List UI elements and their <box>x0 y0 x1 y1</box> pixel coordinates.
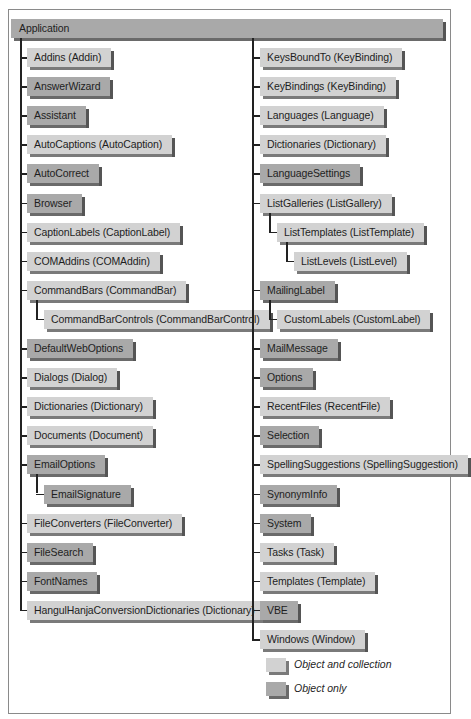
connector <box>269 213 271 232</box>
node-fontnames: FontNames <box>27 572 97 591</box>
node-listgalleries: ListGalleries (ListGallery) <box>260 194 392 213</box>
node-languagesettings: LanguageSettings <box>260 164 360 183</box>
node-templates: Templates (Template) <box>260 572 375 591</box>
legend-swatch-coll <box>266 658 286 672</box>
node-filesearch: FileSearch <box>27 543 93 562</box>
node-documents: Documents (Document) <box>27 426 153 445</box>
node-comaddins: COMAddins (COMAddin) <box>27 252 160 271</box>
connector <box>269 232 277 234</box>
node-commandbars: CommandBars (CommandBar) <box>27 281 186 300</box>
legend-swatch-obj <box>266 682 286 696</box>
node-hangulhanjaconversiondictionaries: HangulHanjaConversionDictionaries (Dicti… <box>27 601 265 620</box>
node-languages: Languages (Language) <box>260 106 384 125</box>
node-customlabels: CustomLabels (CustomLabel) <box>277 310 430 329</box>
connector <box>286 242 288 261</box>
legend-label: Object and collection <box>294 658 391 670</box>
node-addins: Addins (Addin) <box>27 48 111 67</box>
node-vbe: VBE <box>260 601 298 620</box>
node-system: System <box>260 514 311 533</box>
connector <box>252 38 254 641</box>
connector <box>269 300 271 319</box>
node-dictionaries: Dictionaries (Dictionary) <box>27 397 153 416</box>
node-options: Options <box>260 368 313 387</box>
node-browser: Browser <box>27 194 82 213</box>
node-listlevels: ListLevels (ListLevel) <box>294 252 407 271</box>
node-captionlabels: CaptionLabels (CaptionLabel) <box>27 223 180 242</box>
node-autocaptions: AutoCaptions (AutoCaption) <box>27 135 172 154</box>
node-mailmessage: MailMessage <box>260 339 338 358</box>
node-listtemplates: ListTemplates (ListTemplate) <box>277 223 424 242</box>
node-autocorrect: AutoCorrect <box>27 164 99 183</box>
connector <box>36 319 44 321</box>
node-application: Application <box>11 19 443 38</box>
connector <box>286 261 294 263</box>
connector <box>269 319 277 321</box>
connector <box>36 300 38 319</box>
node-defaultweboptions: DefaultWebOptions <box>27 339 133 358</box>
node-commandbarcontrols: CommandBarControls (CommandBarControl) <box>44 310 270 329</box>
node-emailsignature: EmailSignature <box>44 485 131 504</box>
node-assistant: Assistant <box>27 106 86 125</box>
node-emailoptions: EmailOptions <box>27 455 105 474</box>
node-windows: Windows (Window) <box>260 630 365 649</box>
connector <box>36 494 44 496</box>
connector <box>36 474 38 493</box>
node-answerwizard: AnswerWizard <box>27 77 110 96</box>
node-selection: Selection <box>260 426 319 445</box>
node-synonyminfo: SynonymInfo <box>260 485 337 504</box>
node-tasks: Tasks (Task) <box>260 543 334 562</box>
node-spellingsuggestions: SpellingSuggestions (SpellingSuggestion) <box>260 455 468 474</box>
node-keysboundto: KeysBoundTo (KeyBinding) <box>260 48 402 67</box>
connector <box>20 38 22 611</box>
legend-label: Object only <box>294 682 347 694</box>
node-fileconverters: FileConverters (FileConverter) <box>27 514 182 533</box>
node-dialogs: Dialogs (Dialog) <box>27 368 117 387</box>
node-recentfiles: RecentFiles (RecentFile) <box>260 397 390 416</box>
node-keybindings: KeyBindings (KeyBinding) <box>260 77 396 96</box>
node-dictionaries: Dictionaries (Dictionary) <box>260 135 386 154</box>
node-mailinglabel: MailingLabel <box>260 281 335 300</box>
